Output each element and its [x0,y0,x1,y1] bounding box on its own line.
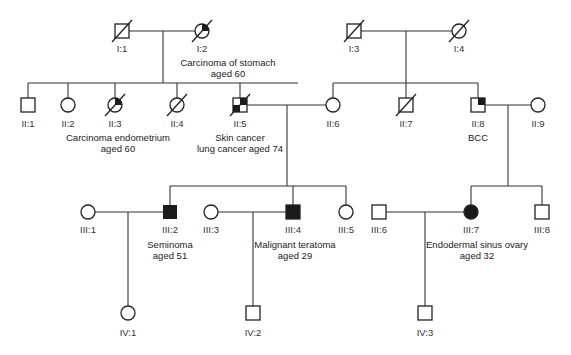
individual-II3: II:3 Carcinoma endometrium aged 60 [66,94,170,154]
individual-III5: III:5 [338,205,354,235]
individual-III4: III:4 Malignant teratoma aged 29 [254,205,336,261]
individual-II7: II:7 [396,94,416,129]
individual-III6: III:6 [371,205,387,235]
svg-text:I:2: I:2 [197,43,208,54]
individual-I4: I:4 [449,20,469,54]
svg-text:II:4: II:4 [170,118,183,129]
svg-text:III:8: III:8 [534,224,550,235]
individual-II8: II:8 BCC [468,98,488,143]
svg-text:Skin cancer: Skin cancer [215,132,265,143]
individual-II2: II:2 [61,98,75,129]
individual-II5: II:5 Skin cancer lung cancer aged 74 [197,94,283,154]
individual-III8: III:8 [534,205,550,235]
svg-text:BCC: BCC [468,132,488,143]
individual-II1: II:1 [21,98,35,129]
svg-text:aged 60: aged 60 [101,143,135,154]
individual-IV2: IV:2 [245,306,262,338]
svg-text:I:4: I:4 [454,43,465,54]
svg-text:III:5: III:5 [338,224,354,235]
svg-text:II:6: II:6 [326,118,339,129]
svg-text:IV:2: IV:2 [245,327,262,338]
svg-text:II:8: II:8 [471,118,484,129]
svg-text:Carcinoma of stomach: Carcinoma of stomach [180,57,275,68]
individual-IV3: IV:3 [417,306,434,338]
pedigree-canvas: I:1 I:2 Carcinoma of stomach aged 60 I:3… [0,0,571,355]
svg-text:III:4: III:4 [285,224,301,235]
individual-III7: III:7 Endodermal sinus ovary aged 32 [426,205,528,261]
svg-text:I:1: I:1 [117,43,128,54]
svg-text:aged 60: aged 60 [211,68,245,79]
pedigree-diagram: I:1 I:2 Carcinoma of stomach aged 60 I:3… [0,0,571,355]
svg-text:II:9: II:9 [531,118,544,129]
svg-text:II:7: II:7 [399,118,412,129]
individual-II9: II:9 [531,98,545,129]
svg-text:III:3: III:3 [203,224,219,235]
svg-text:II:3: II:3 [108,118,121,129]
individual-I2: I:2 Carcinoma of stomach aged 60 [180,20,275,79]
individual-III1: III:1 [80,205,96,235]
individual-I1: I:1 [112,20,132,54]
individual-I3: I:3 [344,20,364,54]
svg-text:IV:1: IV:1 [120,327,137,338]
individual-III2: III:2 Seminoma aged 51 [147,205,193,261]
connection-lines [28,31,542,307]
individual-III3: III:3 [203,205,219,235]
individual-IV1: IV:1 [120,306,137,338]
svg-text:aged 29: aged 29 [278,250,312,261]
svg-text:Carcinoma endometrium: Carcinoma endometrium [66,132,170,143]
individual-II6: II:6 [326,98,340,129]
svg-text:II:5: II:5 [233,118,246,129]
svg-text:III:1: III:1 [80,224,96,235]
svg-text:aged 32: aged 32 [460,250,494,261]
svg-text:aged 51: aged 51 [153,250,187,261]
svg-text:II:2: II:2 [61,118,74,129]
svg-text:lung cancer aged 74: lung cancer aged 74 [197,143,283,154]
svg-text:Malignant teratoma: Malignant teratoma [254,239,336,250]
svg-text:Seminoma: Seminoma [147,239,193,250]
svg-text:I:3: I:3 [349,43,360,54]
svg-text:III:7: III:7 [463,224,479,235]
individual-II4: II:4 [167,94,187,129]
svg-text:III:6: III:6 [371,224,387,235]
svg-text:II:1: II:1 [21,118,34,129]
svg-text:III:2: III:2 [162,224,178,235]
svg-text:IV:3: IV:3 [417,327,434,338]
svg-text:Endodermal sinus ovary: Endodermal sinus ovary [426,239,528,250]
